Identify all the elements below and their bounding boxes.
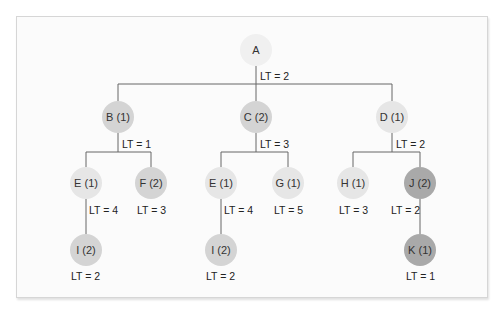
lead-time-label-e1: LT = 4 <box>89 204 118 216</box>
tree-node-g: G (1) <box>272 167 304 199</box>
lead-time-label-b: LT = 1 <box>122 138 151 150</box>
tree-node-d: D (1) <box>376 101 408 133</box>
tree-node-a: A <box>240 34 272 66</box>
tree-node-i2: I (2) <box>205 234 237 266</box>
lead-time-label-h: LT = 3 <box>339 204 368 216</box>
lead-time-label-f: LT = 3 <box>137 204 166 216</box>
lead-time-label-e2: LT = 4 <box>224 204 253 216</box>
tree-node-b: B (1) <box>102 101 134 133</box>
lead-time-label-i1: LT = 2 <box>71 270 100 282</box>
lead-time-label-j: LT = 2 <box>391 204 420 216</box>
lead-time-label-c: LT = 3 <box>260 138 289 150</box>
tree-node-c: C (2) <box>240 101 272 133</box>
tree-node-e2: E (1) <box>205 167 237 199</box>
tree-node-i1: I (2) <box>70 234 102 266</box>
lead-time-label-g: LT = 5 <box>274 204 303 216</box>
tree-node-e1: E (1) <box>70 167 102 199</box>
tree-node-k: K (1) <box>404 234 436 266</box>
lead-time-label-d: LT = 2 <box>396 138 425 150</box>
lead-time-label-i2: LT = 2 <box>206 270 235 282</box>
tree-node-h: H (1) <box>337 167 369 199</box>
tree-node-f: F (2) <box>135 167 167 199</box>
tree-node-j: J (2) <box>404 167 436 199</box>
lead-time-label-a: LT = 2 <box>260 70 289 82</box>
lead-time-label-k: LT = 1 <box>406 270 435 282</box>
